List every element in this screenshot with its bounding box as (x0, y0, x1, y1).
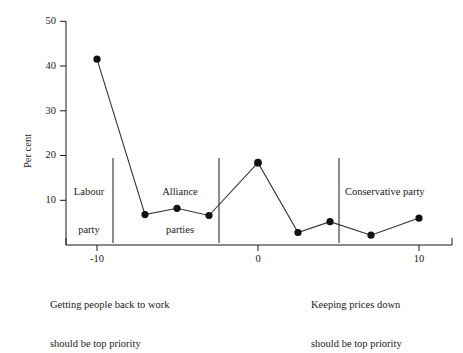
annotation-alliance-parties: Alliance parties (146, 161, 214, 261)
x-tick-label-0: 0 (238, 253, 278, 264)
annotation-labour-line1: Labour (66, 186, 112, 199)
y-tick-label-10: 10 (30, 194, 56, 205)
caption-left-line1: Getting people back to work (50, 298, 170, 311)
data-point (254, 159, 262, 167)
data-point (294, 229, 301, 236)
y-tick-label-40: 40 (30, 60, 56, 71)
caption-right: Keeping prices down should be top priori… (311, 272, 402, 353)
caption-left-line2: should be top priority (50, 337, 170, 350)
annotation-labour-party: Labour party (66, 161, 112, 261)
annotation-conservative-party: Conservative party (345, 161, 455, 224)
caption-right-line2: should be top priority (311, 337, 402, 350)
data-point (93, 56, 100, 63)
y-tick-label-20: 20 (30, 149, 56, 160)
data-point (326, 218, 333, 225)
annotation-alliance-line2: parties (146, 224, 214, 237)
data-point (367, 232, 374, 239)
y-tick-label-30: 30 (30, 105, 56, 116)
y-axis-title: Per cent (22, 134, 33, 168)
annotation-conservative-line1: Conservative party (345, 186, 455, 199)
annotation-alliance-line1: Alliance (146, 186, 214, 199)
annotation-labour-line2: party (66, 224, 112, 237)
x-tick-label-10: 10 (399, 253, 439, 264)
y-tick-label-50: 50 (30, 15, 56, 26)
caption-right-line1: Keeping prices down (311, 298, 402, 311)
caption-left: Getting people back to work should be to… (50, 272, 170, 353)
